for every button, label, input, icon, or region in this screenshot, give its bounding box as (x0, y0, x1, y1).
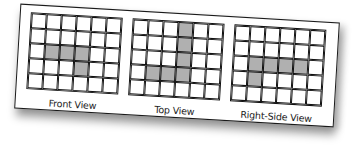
grid-cell (294, 44, 310, 60)
shaded-cell (278, 58, 294, 74)
grid-cell (131, 49, 147, 65)
grid-cell (306, 90, 322, 106)
top-view-label: Top View (127, 102, 221, 119)
grid-cell (104, 48, 120, 64)
grid-cell (205, 69, 221, 85)
grid-cell (291, 89, 307, 105)
shaded-cell (178, 22, 194, 38)
grid-cell (147, 35, 163, 51)
grid-cell (294, 29, 310, 45)
grid-cell (105, 33, 121, 49)
grid-cell (57, 75, 73, 91)
grid-cell (191, 53, 207, 69)
shaded-cell (160, 66, 176, 82)
front-view-grid (26, 12, 122, 94)
grid-cell (276, 88, 292, 104)
grid-cell (249, 41, 265, 57)
grid-cell (233, 55, 249, 71)
grid-cell (163, 21, 179, 37)
grid-cell (308, 60, 324, 76)
grid-cell (130, 64, 146, 80)
grid-cell (309, 30, 325, 46)
grid-cell (161, 51, 177, 67)
grid-cell (292, 74, 308, 90)
grid-cell (31, 13, 47, 29)
grid-cell (261, 87, 277, 103)
grid-cell (87, 77, 103, 93)
grid-cell (29, 43, 45, 59)
grid-cell (102, 78, 118, 94)
grid-cell (72, 76, 88, 92)
shaded-cell (263, 57, 279, 73)
grid-cell (45, 29, 61, 45)
grid-cell (103, 63, 119, 79)
shaded-cell (74, 46, 90, 62)
shaded-cell (73, 61, 89, 77)
grid-cell (27, 73, 43, 89)
grid-cell (91, 17, 107, 33)
grid-cell (88, 62, 104, 78)
grid-cell (146, 50, 162, 66)
top-view: Top View (127, 18, 226, 118)
grid-cell (30, 28, 46, 44)
grid-cell (204, 84, 220, 100)
shaded-cell (59, 45, 75, 61)
grid-cell (208, 24, 224, 40)
grid-cell (174, 82, 190, 98)
shaded-cell (145, 65, 161, 81)
grid-cell (234, 40, 250, 56)
grid-cell (42, 74, 58, 90)
front-view-label: Front View (25, 96, 119, 113)
grid-cell (162, 36, 178, 52)
grid-cell (279, 43, 295, 59)
grid-cell (309, 45, 325, 61)
grid-cell (262, 72, 278, 88)
grid-cell (264, 42, 280, 58)
grid-cell (207, 39, 223, 55)
grid-cell (232, 70, 248, 86)
grid-cell (206, 54, 222, 70)
shaded-cell (176, 52, 192, 68)
front-view: Front View (25, 12, 124, 112)
shaded-cell (177, 37, 193, 53)
grid-cell (58, 60, 74, 76)
grid-cell (280, 28, 296, 44)
grid-cell (60, 30, 76, 46)
top-view-grid (128, 18, 224, 100)
grid-cell (189, 83, 205, 99)
grid-cell (76, 16, 92, 32)
grid-cell (106, 18, 122, 34)
grid-cell (61, 15, 77, 31)
grid-cell (75, 31, 91, 47)
diagram-stage: Front View Top View Right-Side View (0, 0, 353, 151)
right-side-view: Right-Side View (229, 24, 328, 124)
grid-cell (246, 86, 262, 102)
grid-cell (89, 47, 105, 63)
grid-cell (235, 25, 251, 41)
right-side-view-grid (230, 24, 326, 106)
grid-cell (277, 73, 293, 89)
grid-cell (129, 79, 145, 95)
shaded-cell (44, 44, 60, 60)
shaded-cell (247, 71, 263, 87)
right-side-view-label: Right-Side View (229, 108, 323, 125)
grid-cell (307, 75, 323, 91)
grid-cell (265, 27, 281, 43)
views-card: Front View Top View Right-Side View (14, 4, 340, 128)
grid-cell (132, 34, 148, 50)
grid-cell (250, 26, 266, 42)
shaded-cell (293, 59, 309, 75)
grid-cell (46, 14, 62, 30)
grid-cell (43, 59, 59, 75)
grid-cell (133, 19, 149, 35)
grid-cell (90, 32, 106, 48)
grid-cell (231, 85, 247, 101)
shaded-cell (175, 67, 191, 83)
grid-cell (190, 68, 206, 84)
grid-cell (193, 23, 209, 39)
shaded-cell (248, 56, 264, 72)
grid-cell (28, 58, 44, 74)
grid-cell (159, 81, 175, 97)
grid-cell (144, 80, 160, 96)
grid-cell (192, 38, 208, 54)
